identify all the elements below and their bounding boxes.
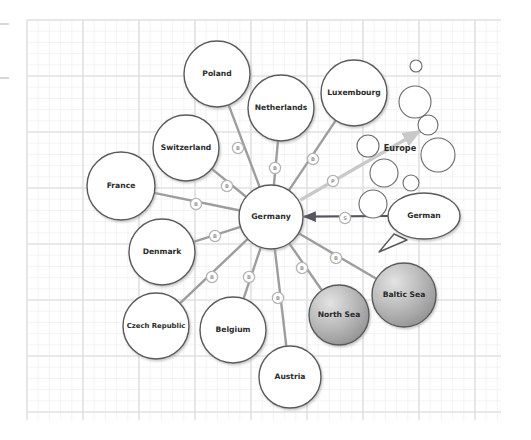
node-label-north_sea: North Sea — [318, 310, 361, 319]
edge-badge-b-netherlands[interactable]: B — [269, 162, 280, 173]
cluster-bubble-4 — [421, 138, 455, 172]
node-switzerland[interactable]: Switzerland — [153, 115, 219, 181]
edge-badge-b-denmark[interactable]: B — [209, 230, 220, 241]
node-label-belgium: Belgium — [216, 325, 251, 334]
cluster-bubble-6 — [403, 175, 419, 191]
node-label-denmark: Denmark — [143, 247, 183, 256]
edge-badge-p-germany[interactable]: P — [327, 175, 338, 186]
edge-badge-text: B — [194, 201, 198, 207]
node-label-baltic_sea: Baltic Sea — [383, 290, 426, 299]
edge-badge-b-luxembourg[interactable]: B — [307, 153, 318, 164]
node-north_sea[interactable]: North Sea — [309, 285, 369, 345]
edge-badge-b-france[interactable]: B — [190, 198, 201, 209]
edge-badge-b-poland[interactable]: B — [232, 142, 243, 153]
europe-cluster-label: Europe — [384, 143, 417, 153]
node-label-poland: Poland — [202, 69, 231, 78]
edge-badge-b-austria[interactable]: B — [272, 292, 283, 303]
node-germany[interactable]: Germany — [239, 185, 303, 249]
edge-badge-text: B — [210, 274, 214, 280]
node-label-austria: Austria — [275, 372, 306, 381]
node-netherlands[interactable]: Netherlands — [248, 75, 314, 141]
node-label-netherlands: Netherlands — [255, 103, 308, 112]
graph-svg: Europe GermanyPolandNetherlandsLuxembour… — [0, 0, 531, 440]
node-label-luxembourg: Luxembourg — [327, 88, 380, 97]
node-belgium[interactable]: Belgium — [200, 297, 266, 363]
edge-badge-text: B — [276, 295, 280, 301]
cluster-bubble-1 — [410, 60, 422, 72]
edge-badge-s-german[interactable]: S — [339, 212, 350, 223]
edge-badge-b-north_sea[interactable]: B — [296, 262, 307, 273]
node-label-france: France — [107, 181, 136, 190]
node-luxembourg[interactable]: Luxembourg — [321, 60, 387, 126]
edge-badge-text: B — [236, 145, 240, 151]
cluster-bubble-5 — [370, 159, 398, 187]
cluster-bubble-3 — [357, 135, 379, 157]
node-baltic_sea[interactable]: Baltic Sea — [372, 263, 436, 327]
margin-tick-marks — [0, 24, 9, 78]
speech-bubble-label: German — [407, 211, 441, 220]
speech-bubble-tail — [379, 234, 407, 252]
node-czech_republic[interactable]: Czech Republic — [123, 293, 189, 359]
edge-badge-text: B — [247, 274, 251, 280]
edge-badge-text: B — [225, 183, 229, 189]
node-denmark[interactable]: Denmark — [129, 219, 195, 285]
edge-badge-text: B — [334, 255, 338, 261]
edge-badge-b-czech_republic[interactable]: B — [206, 271, 217, 282]
node-label-germany: Germany — [251, 212, 291, 221]
cluster-bubble-2 — [418, 115, 438, 135]
node-austria[interactable]: Austria — [259, 346, 321, 408]
edge-badge-text: S — [343, 215, 347, 221]
edge-badge-text: B — [213, 233, 217, 239]
cluster-bubble-0 — [399, 86, 431, 118]
edge-badge-b-switzerland[interactable]: B — [221, 180, 232, 191]
edge-badge-text: B — [311, 156, 315, 162]
edge-badge-b-belgium[interactable]: B — [243, 271, 254, 282]
edge-badge-text: B — [273, 165, 277, 171]
node-france[interactable]: France — [87, 152, 155, 220]
edge-badge-text: B — [300, 265, 304, 271]
diagram-canvas: Europe GermanyPolandNetherlandsLuxembour… — [0, 0, 531, 440]
node-label-switzerland: Switzerland — [161, 143, 212, 152]
node-label-czech_republic: Czech Republic — [127, 322, 186, 330]
node-poland[interactable]: Poland — [184, 41, 250, 107]
edge-badge-text: P — [331, 178, 335, 184]
cluster-bubble-7 — [359, 190, 387, 218]
edge-badge-b-baltic_sea[interactable]: B — [330, 252, 341, 263]
